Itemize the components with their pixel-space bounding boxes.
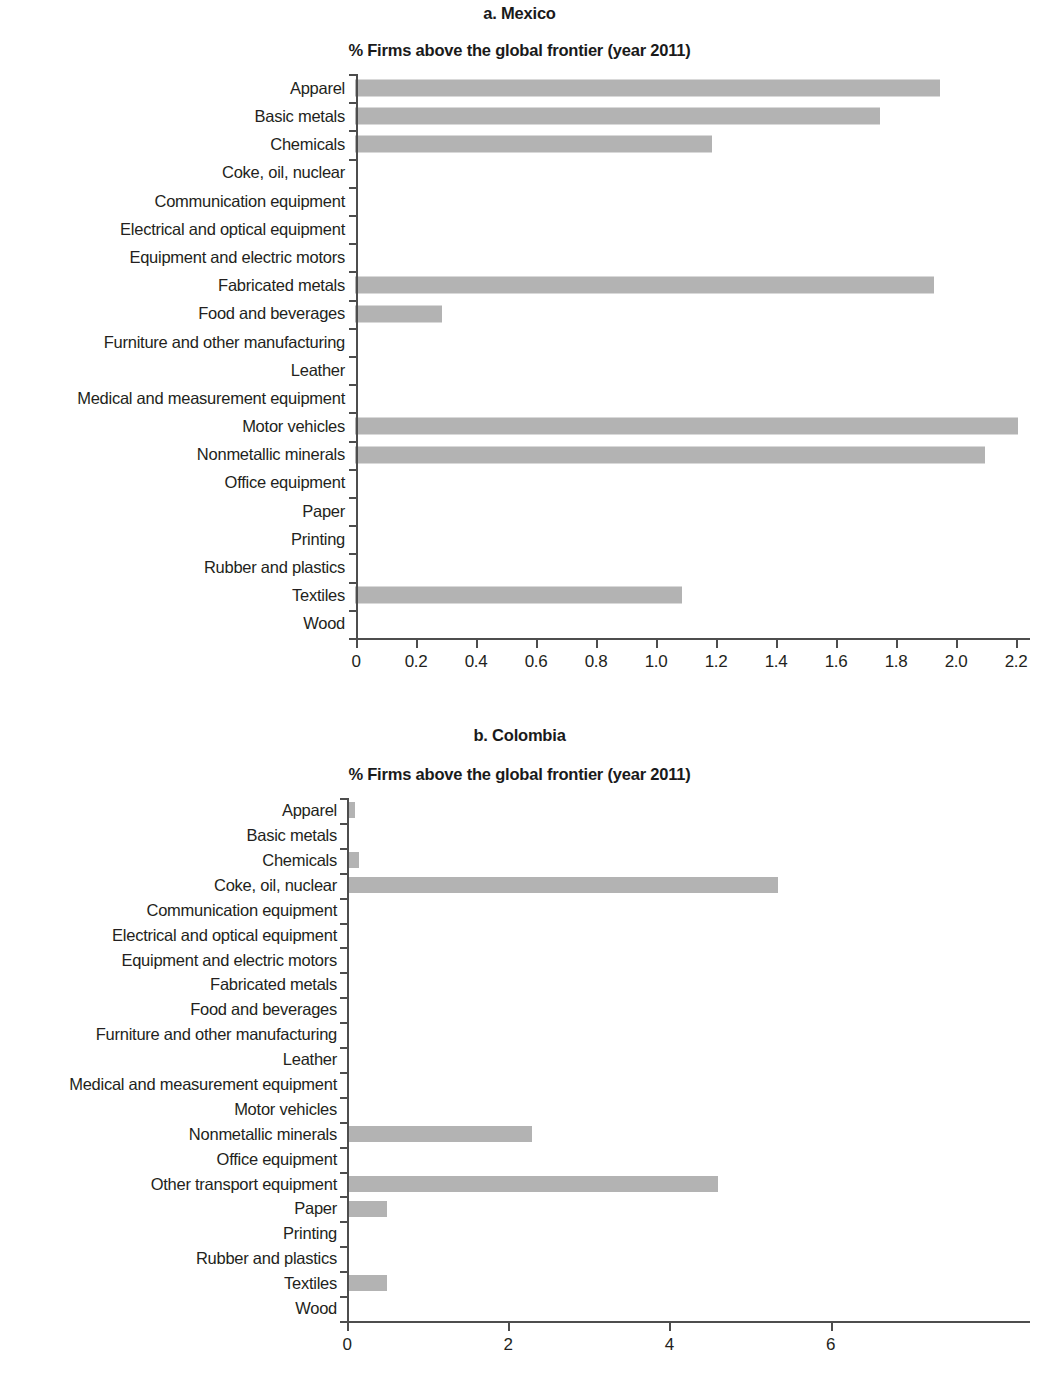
x-axis-tick — [831, 1323, 833, 1331]
x-axis-tick — [656, 640, 658, 648]
y-axis-tick — [340, 1246, 347, 1248]
x-axis-tick-label: 2.0 — [945, 652, 968, 672]
category-label: Fabricated metals — [0, 277, 355, 294]
bar-row: Wood — [0, 610, 1039, 638]
y-axis-tick — [349, 412, 356, 414]
bar-track — [347, 1271, 1039, 1296]
x-axis-tick-label: 4 — [665, 1335, 674, 1355]
y-axis-tick — [340, 1221, 347, 1223]
panel-b-bar-rows: ApparelBasic metalsChemicalsCoke, oil, n… — [0, 798, 1039, 1321]
category-label: Textiles — [0, 1275, 347, 1292]
y-axis-tick — [349, 271, 356, 273]
category-label: Nonmetallic minerals — [0, 446, 355, 463]
x-axis-tick — [356, 640, 358, 648]
y-axis-tick — [349, 553, 356, 555]
y-axis-tick — [340, 947, 347, 949]
bar-row: Nonmetallic minerals — [0, 440, 1039, 468]
category-label: Equipment and electric motors — [0, 952, 347, 969]
bar-row: Medical and measurement equipment — [0, 1072, 1039, 1097]
bar-track — [347, 1171, 1039, 1196]
bar-row: Basic metals — [0, 102, 1039, 130]
y-axis-tick — [340, 972, 347, 974]
chart-panel-colombia: b. Colombia % Firms above the global fro… — [0, 722, 1039, 1391]
y-axis-tick — [340, 1271, 347, 1273]
bar-row: Wood — [0, 1296, 1039, 1321]
y-axis-tick — [340, 1072, 347, 1074]
bar-track — [347, 997, 1039, 1022]
bar-row: Office equipment — [0, 469, 1039, 497]
panel-a-subtitle: % Firms above the global frontier (year … — [0, 41, 1039, 60]
bar-row: Communication equipment — [0, 898, 1039, 923]
bar-track — [355, 328, 1039, 356]
x-axis-tick — [508, 1323, 510, 1331]
bar-track — [347, 1122, 1039, 1147]
x-axis-tick-label: 1.2 — [705, 652, 728, 672]
y-axis-tick — [349, 102, 356, 104]
category-label: Apparel — [0, 802, 347, 819]
category-label: Paper — [0, 503, 355, 520]
category-label: Printing — [0, 531, 355, 548]
bar-track — [347, 1196, 1039, 1221]
bar-row: Coke, oil, nuclear — [0, 873, 1039, 898]
x-axis-tick — [669, 1323, 671, 1331]
bar-track — [355, 412, 1039, 440]
bar-row: Textiles — [0, 1271, 1039, 1296]
x-axis-tick-label: 0.6 — [525, 652, 548, 672]
bar-track — [347, 1097, 1039, 1122]
category-label: Fabricated metals — [0, 976, 347, 993]
category-label: Food and beverages — [0, 305, 355, 322]
x-axis-tick — [536, 640, 538, 648]
bar-track — [355, 384, 1039, 412]
y-axis-tick — [340, 1321, 347, 1323]
category-label: Basic metals — [0, 108, 355, 125]
y-axis-tick — [349, 441, 356, 443]
x-axis-tick — [476, 640, 478, 648]
x-axis-tick-label: 0 — [342, 1335, 351, 1355]
bar-row: Medical and measurement equipment — [0, 384, 1039, 412]
bar-track — [347, 1221, 1039, 1246]
category-label: Office equipment — [0, 474, 355, 491]
y-axis-tick — [340, 923, 347, 925]
category-label: Coke, oil, nuclear — [0, 164, 355, 181]
bar-row: Office equipment — [0, 1146, 1039, 1171]
bar-track — [355, 553, 1039, 581]
bar-track — [355, 581, 1039, 609]
bar — [347, 1201, 387, 1217]
bar-row: Rubber and plastics — [0, 1246, 1039, 1271]
bar — [355, 305, 442, 322]
y-axis-tick — [349, 497, 356, 499]
x-axis-tick-label: 1.4 — [765, 652, 788, 672]
bar-track — [355, 74, 1039, 102]
bar-track — [355, 187, 1039, 215]
bar-row: Food and beverages — [0, 300, 1039, 328]
bar-track — [355, 469, 1039, 497]
category-label: Motor vehicles — [0, 418, 355, 435]
y-axis-tick — [340, 1172, 347, 1174]
category-label: Medical and measurement equipment — [0, 1076, 347, 1093]
panel-a-plot: ApparelBasic metalsChemicalsCoke, oil, n… — [0, 74, 1039, 674]
bar — [355, 277, 934, 294]
y-axis-tick — [349, 469, 356, 471]
bar-row: Furniture and other manufacturing — [0, 1022, 1039, 1047]
bar-track — [347, 898, 1039, 923]
bar-track — [347, 947, 1039, 972]
category-label: Communication equipment — [0, 193, 355, 210]
category-label: Furniture and other manufacturing — [0, 1026, 347, 1043]
bar-track — [355, 130, 1039, 158]
bar-track — [347, 798, 1039, 823]
bar-row: Apparel — [0, 74, 1039, 102]
bar-track — [355, 243, 1039, 271]
category-label: Chemicals — [0, 136, 355, 153]
x-axis-tick-label: 1.8 — [885, 652, 908, 672]
bar-track — [355, 102, 1039, 130]
bar-track — [355, 159, 1039, 187]
category-label: Rubber and plastics — [0, 559, 355, 576]
bar-row: Motor vehicles — [0, 412, 1039, 440]
category-label: Furniture and other manufacturing — [0, 334, 355, 351]
x-axis-tick — [347, 1323, 349, 1331]
bar-row: Coke, oil, nuclear — [0, 159, 1039, 187]
x-axis-tick-label: 0 — [351, 652, 360, 672]
y-axis-tick — [349, 610, 356, 612]
category-label: Medical and measurement equipment — [0, 390, 355, 407]
bar-row: Electrical and optical equipment — [0, 215, 1039, 243]
